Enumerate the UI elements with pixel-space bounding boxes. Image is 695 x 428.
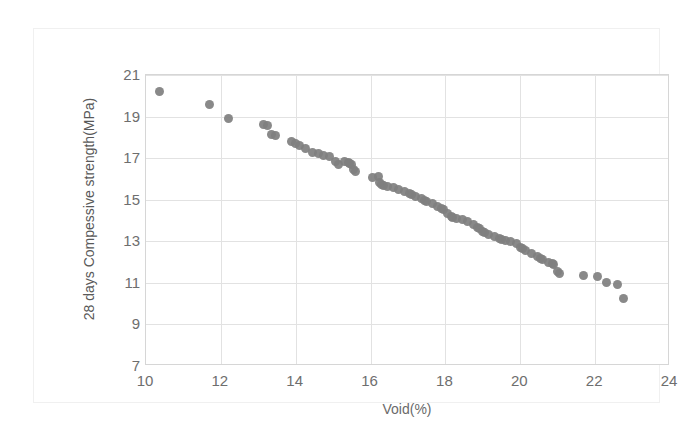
x-tick-label: 14: [270, 373, 320, 388]
x-tick-label: 22: [569, 373, 619, 388]
scatter-point: [437, 204, 446, 213]
chart-screenshot: 28 days Compessive strength(MPa) 7911131…: [0, 0, 695, 428]
y-tick-label: 15: [100, 191, 140, 206]
gridline-vertical: [296, 75, 297, 364]
gridline-vertical: [221, 75, 222, 364]
gridline-vertical: [371, 75, 372, 364]
y-tick-label: 7: [100, 358, 140, 373]
scatter-point: [205, 100, 214, 109]
plot-area: [145, 74, 669, 365]
scatter-point: [155, 87, 164, 96]
gridline-horizontal: [146, 158, 668, 159]
chart-container: 28 days Compessive strength(MPa) 7911131…: [33, 28, 660, 403]
scatter-point: [613, 280, 622, 289]
gridline-vertical: [520, 75, 521, 364]
x-axis-title: Void(%): [145, 401, 669, 417]
y-tick-label: 19: [100, 108, 140, 123]
x-tick-label: 10: [120, 373, 170, 388]
x-tick-label: 16: [345, 373, 395, 388]
scatter-point: [271, 131, 280, 140]
scatter-point: [497, 235, 506, 244]
scatter-point: [383, 182, 392, 191]
scatter-point: [473, 223, 482, 232]
scatter-point: [619, 294, 628, 303]
x-tick-label: 20: [494, 373, 544, 388]
y-tick-label: 11: [100, 274, 140, 289]
y-tick-label: 13: [100, 233, 140, 248]
scatter-point: [224, 114, 233, 123]
gridline-vertical: [595, 75, 596, 364]
gridline-horizontal: [146, 200, 668, 201]
y-axis-title: 28 days Compessive strength(MPa): [81, 59, 97, 359]
scatter-point: [602, 278, 611, 287]
scatter-point: [555, 269, 564, 278]
y-tick-label: 21: [100, 67, 140, 82]
x-axis-tick-labels: 1012141618202224: [145, 373, 669, 395]
scatter-point: [579, 271, 588, 280]
gridline-horizontal: [146, 324, 668, 325]
gridline-horizontal: [146, 75, 668, 76]
x-tick-label: 24: [644, 373, 694, 388]
x-tick-label: 12: [195, 373, 245, 388]
y-axis-tick-labels: 79111315171921: [96, 74, 140, 365]
gridline-horizontal: [146, 283, 668, 284]
gridline-horizontal: [146, 241, 668, 242]
scatter-point: [518, 244, 527, 253]
gridline-vertical: [445, 75, 446, 364]
y-tick-label: 17: [100, 150, 140, 165]
scatter-point: [593, 272, 602, 281]
scatter-point: [548, 259, 557, 268]
x-tick-label: 18: [419, 373, 469, 388]
y-tick-label: 9: [100, 316, 140, 331]
scatter-point: [351, 167, 360, 176]
